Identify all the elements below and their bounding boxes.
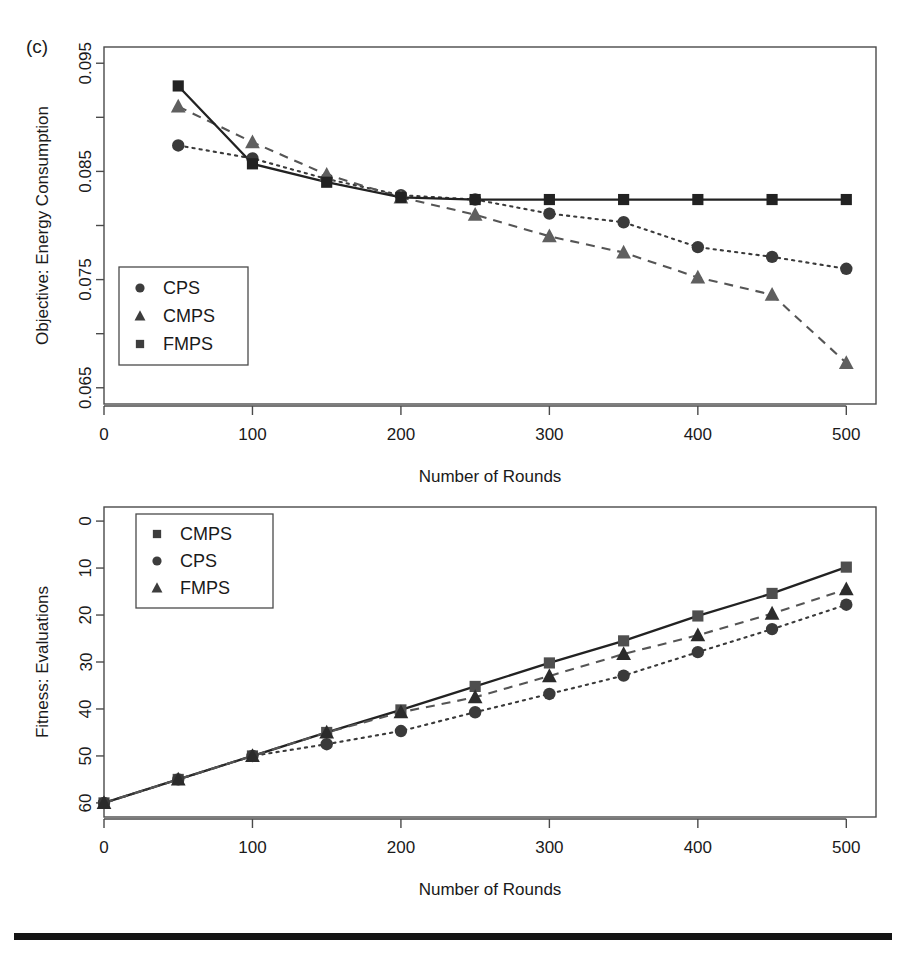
legend-label-cmps: CMPS xyxy=(163,306,215,326)
datapoint-cps xyxy=(840,598,852,610)
datapoint-cmps xyxy=(766,588,777,599)
x-axis-title: Number of Rounds xyxy=(419,880,562,899)
y-tick-label: 60 xyxy=(77,793,96,812)
y-tick-label: 40 xyxy=(77,700,96,719)
y-tick-label: 10 xyxy=(77,559,96,578)
x-tick-label: 200 xyxy=(387,425,415,444)
legend-label-cmps: CMPS xyxy=(180,524,232,544)
datapoint-cps xyxy=(766,251,778,263)
datapoint-cmps xyxy=(171,99,186,113)
legend-label-fmps: FMPS xyxy=(180,578,230,598)
x-tick-label: 400 xyxy=(684,425,712,444)
y-tick-label: 0 xyxy=(77,516,96,525)
y-tick-label: 0.075 xyxy=(77,258,96,301)
datapoint-fmps xyxy=(692,194,703,205)
legend-label-cps: CPS xyxy=(163,278,200,298)
x-axis-title: Number of Rounds xyxy=(419,467,562,486)
datapoint-cps xyxy=(692,646,704,658)
datapoint-cmps xyxy=(618,635,629,646)
x-tick-label: 100 xyxy=(238,838,266,857)
datapoint-fmps xyxy=(765,606,780,620)
series-line-cps xyxy=(104,605,846,803)
datapoint-cps xyxy=(840,263,852,275)
datapoint-cps xyxy=(172,139,184,151)
datapoint-cmps xyxy=(544,657,555,668)
series-line-cps xyxy=(178,145,846,268)
datapoint-cmps xyxy=(839,355,854,369)
datapoint-fmps xyxy=(470,194,481,205)
x-tick-label: 0 xyxy=(99,838,108,857)
x-tick-label: 500 xyxy=(832,425,860,444)
series-line-fmps xyxy=(178,86,846,200)
y-axis-title: Fitness: Evaluations xyxy=(33,586,52,738)
datapoint-fmps xyxy=(766,194,777,205)
datapoint-fmps xyxy=(395,192,406,203)
x-tick-label: 300 xyxy=(535,838,563,857)
x-tick-label: 500 xyxy=(832,838,860,857)
x-tick-label: 100 xyxy=(238,425,266,444)
y-tick-label: 50 xyxy=(77,746,96,765)
x-tick-label: 200 xyxy=(387,838,415,857)
datapoint-fmps xyxy=(841,194,852,205)
legend-marker-cps xyxy=(135,283,144,292)
datapoint-cps xyxy=(320,738,332,750)
datapoint-cps xyxy=(543,688,555,700)
datapoint-fmps xyxy=(247,158,258,169)
datapoint-fmps xyxy=(618,194,629,205)
datapoint-cmps xyxy=(690,270,705,284)
figure-bottom-rule xyxy=(14,933,892,940)
legend: CMPSCPSFMPS xyxy=(136,514,273,608)
x-tick-label: 0 xyxy=(99,425,108,444)
datapoint-fmps xyxy=(544,194,555,205)
chart-energy-consumption: 0.0950.0850.0750.0650100200300400500Numb… xyxy=(0,0,906,480)
legend-marker-cmps xyxy=(153,530,161,538)
datapoint-cmps xyxy=(692,610,703,621)
y-tick-label: 30 xyxy=(77,653,96,672)
y-axis-title: Objective: Energy Consumption xyxy=(33,106,52,345)
datapoint-cps xyxy=(469,706,481,718)
figure-container: (c) 0.0950.0850.0750.0650100200300400500… xyxy=(0,0,906,957)
datapoint-cps xyxy=(766,623,778,635)
legend: CPSCMPSFMPS xyxy=(119,267,248,365)
y-tick-label: 0.085 xyxy=(77,150,96,193)
legend-label-fmps: FMPS xyxy=(163,334,213,354)
series-line-cmps xyxy=(178,107,846,363)
datapoint-cmps xyxy=(765,287,780,301)
datapoint-fmps xyxy=(321,177,332,188)
x-tick-label: 400 xyxy=(684,838,712,857)
datapoint-cps xyxy=(692,241,704,253)
datapoint-cps xyxy=(617,216,629,228)
chart-fitness-evaluations: 60504030201000100200300400500Number of R… xyxy=(0,487,906,957)
x-tick-label: 300 xyxy=(535,425,563,444)
datapoint-cps xyxy=(543,207,555,219)
y-tick-label: 0.095 xyxy=(77,42,96,85)
legend-marker-fmps xyxy=(136,340,144,348)
datapoint-fmps xyxy=(690,627,705,641)
y-tick-label: 0.065 xyxy=(77,366,96,409)
datapoint-cmps xyxy=(841,562,852,573)
legend-marker-cps xyxy=(152,556,161,565)
y-tick-label: 20 xyxy=(77,606,96,625)
legend-label-cps: CPS xyxy=(180,551,217,571)
datapoint-fmps xyxy=(173,80,184,91)
datapoint-cps xyxy=(617,669,629,681)
datapoint-cmps xyxy=(245,134,260,148)
datapoint-cps xyxy=(395,725,407,737)
datapoint-fmps xyxy=(839,581,854,595)
